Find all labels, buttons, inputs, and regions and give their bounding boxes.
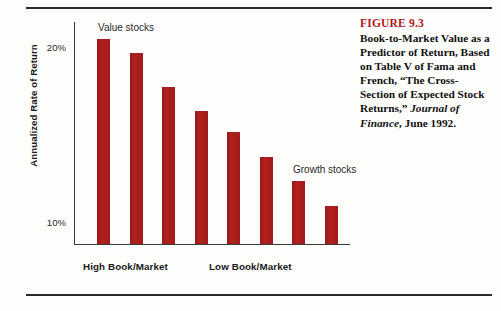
caption-line-6-plain: Returns,”: [360, 102, 410, 114]
bar: [195, 111, 208, 244]
bottom-divider-rule: [26, 294, 492, 296]
figure-caption-text: Book-to-Market Value as a Predictor of R…: [360, 31, 496, 130]
caption-journal-name-2: Finance: [360, 117, 399, 129]
y-tick-label: 10%: [26, 217, 66, 228]
plot-bars: [74, 22, 344, 244]
bar: [97, 39, 110, 244]
caption-line-2: Predictor of Return, Based: [360, 46, 489, 58]
caption-line-1: Book-to-Market Value as a: [360, 32, 490, 44]
caption-line-5: Section of Expected Stock: [360, 88, 485, 100]
x-axis-label-high: High Book/Market: [83, 261, 168, 272]
figure-container: Annualized Rate of Return 10%20% Value s…: [0, 0, 501, 311]
chart-area: Annualized Rate of Return 10%20% Value s…: [0, 0, 360, 294]
caption-line-3: on Table V of Fama and: [360, 60, 475, 72]
figure-number-label: FIGURE 9.3: [360, 16, 496, 30]
caption-line-7-plain: , June 1992.: [399, 117, 456, 129]
bar: [260, 157, 273, 244]
figure-caption-block: FIGURE 9.3 Book-to-Market Value as a Pre…: [360, 16, 496, 130]
bar: [130, 53, 143, 244]
bar: [325, 206, 338, 244]
x-axis-label-low: Low Book/Market: [209, 261, 292, 272]
bar: [292, 181, 305, 244]
caption-line-4: French, “The Cross-: [360, 74, 458, 86]
y-tick-label: 20%: [26, 42, 66, 53]
caption-journal-name: Journal of: [410, 102, 459, 114]
chart-annotation: Value stocks: [98, 22, 154, 33]
chart-annotation: Growth stocks: [293, 164, 356, 175]
bar: [227, 132, 240, 244]
bar: [162, 87, 175, 244]
x-axis-line: [74, 244, 350, 245]
